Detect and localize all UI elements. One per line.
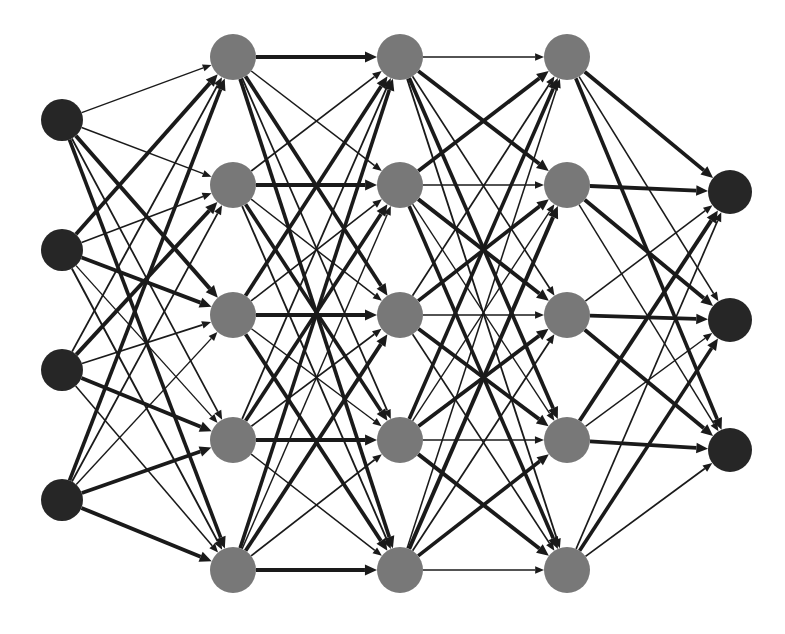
node-hidden-layer-3-3[interactable] [544,292,590,338]
node-hidden-layer-3-1[interactable] [544,34,590,80]
node-hidden-layer-1-2[interactable] [210,162,256,208]
node-output-layer-3[interactable] [708,428,752,472]
node-hidden-layer-2-3[interactable] [377,292,423,338]
network-diagram-canvas [0,0,785,634]
node-input-layer-3[interactable] [41,349,83,391]
node-hidden-layer-1-3[interactable] [210,292,256,338]
node-hidden-layer-1-5[interactable] [210,547,256,593]
node-hidden-layer-1-1[interactable] [210,34,256,80]
node-hidden-layer-2-1[interactable] [377,34,423,80]
node-output-layer-1[interactable] [708,170,752,214]
node-hidden-layer-3-5[interactable] [544,547,590,593]
node-input-layer-1[interactable] [41,99,83,141]
node-hidden-layer-2-4[interactable] [377,417,423,463]
node-output-layer-2[interactable] [708,298,752,342]
network-svg [0,0,785,634]
node-hidden-layer-1-4[interactable] [210,417,256,463]
node-input-layer-4[interactable] [41,479,83,521]
node-input-layer-2[interactable] [41,229,83,271]
node-hidden-layer-2-2[interactable] [377,162,423,208]
node-hidden-layer-3-2[interactable] [544,162,590,208]
node-hidden-layer-2-5[interactable] [377,547,423,593]
node-hidden-layer-3-4[interactable] [544,417,590,463]
